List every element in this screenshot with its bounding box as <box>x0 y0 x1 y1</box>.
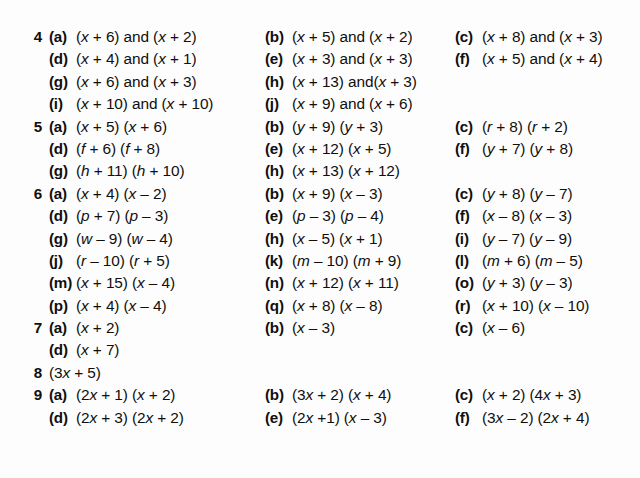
answer-part-label: (o) <box>455 272 482 294</box>
answer-row: (p)(x + 4) (x – 4)(q)(x + 8) (x – 8)(r)(… <box>0 295 640 317</box>
answer-row: (d)(x + 4) and (x + 1)(e)(x + 3) and (x … <box>0 48 640 70</box>
answer-item: (d)(x + 4) and (x + 1) <box>49 48 196 70</box>
answer-expression: (x – 6) <box>482 319 525 336</box>
answer-row: (j)(r – 10) (r + 5)(k)(m – 10) (m + 9)(l… <box>0 250 640 272</box>
answer-expression: (x + 5) and (x + 2) <box>292 28 412 45</box>
answer-expression: (x + 12) (x + 5) <box>292 140 391 157</box>
answer-item: (f)(x – 8) (x – 3) <box>455 205 572 227</box>
answer-item: (j)(r – 10) (r + 5) <box>49 250 170 272</box>
answer-part-label: (i) <box>49 93 76 115</box>
answer-part-label: (c) <box>455 317 482 339</box>
answer-expression: (x + 8) and (x + 3) <box>482 28 602 45</box>
answer-item: (3x + 5) <box>49 362 101 384</box>
answer-part-label: (i) <box>455 228 482 250</box>
answer-row: (i)(x + 10) and (x + 10)(j)(x + 9) and (… <box>0 93 640 115</box>
answer-item: (j)(x + 9) and (x + 6) <box>265 93 412 115</box>
answer-item: (b)(x – 3) <box>265 317 335 339</box>
answer-item: (b)(x + 5) and (x + 2) <box>265 26 412 48</box>
answer-expression: (y + 9) (y + 3) <box>292 118 383 135</box>
answer-expression: (x + 9) and (x + 6) <box>292 95 412 112</box>
answer-item: (d)(2x + 3) (2x + 2) <box>49 407 184 429</box>
answer-expression: (p + 7) (p – 3) <box>76 207 168 224</box>
answer-expression: (y + 8) (y – 7) <box>482 185 572 202</box>
answer-expression: (x + 8) (x – 8) <box>292 297 382 314</box>
answer-expression: (3x + 5) <box>49 364 101 381</box>
answer-expression: (x + 6) and (x + 2) <box>76 28 196 45</box>
answer-item: (b)(x + 9) (x – 3) <box>265 183 382 205</box>
answer-item: (a)(2x + 1) (x + 2) <box>49 384 175 406</box>
answer-part-label: (j) <box>49 250 76 272</box>
answer-part-label: (h) <box>265 160 292 182</box>
answer-item: (b)(3x + 2) (x + 4) <box>265 384 391 406</box>
answer-expression: (2x +1) (x – 3) <box>292 409 387 426</box>
answer-expression: (w – 9) (w – 4) <box>76 230 173 247</box>
answer-item: (m)(x + 15) (x – 4) <box>49 272 175 294</box>
answer-expression: (3x – 2) (2x + 4) <box>482 409 589 426</box>
answer-item: (g)(x + 6) and (x + 3) <box>49 71 196 93</box>
answer-expression: (x + 2) (4x + 3) <box>482 386 581 403</box>
answer-part-label: (f) <box>455 138 482 160</box>
answer-item: (r)(x + 10) (x – 10) <box>455 295 589 317</box>
answer-part-label: (c) <box>455 116 482 138</box>
answer-item: (h)(x + 13) and(x + 3) <box>265 71 417 93</box>
answer-expression: (x + 2) <box>76 319 119 336</box>
answer-part-label: (a) <box>49 384 76 406</box>
answer-expression: (x + 10) and (x + 10) <box>76 95 213 112</box>
answer-part-label: (d) <box>49 407 76 429</box>
answer-expression: (m + 6) (m – 5) <box>482 252 583 269</box>
answer-row: 8(3x + 5) <box>0 362 640 384</box>
answer-expression: (x + 5) and (x + 4) <box>482 50 602 67</box>
answer-expression: (x + 9) (x – 3) <box>292 185 382 202</box>
answer-expression: (x + 6) and (x + 3) <box>76 73 196 90</box>
answer-row: 4(a)(x + 6) and (x + 2)(b)(x + 5) and (x… <box>0 26 640 48</box>
answer-expression: (x + 7) <box>76 341 119 358</box>
answer-part-label: (b) <box>265 317 292 339</box>
answer-part-label: (n) <box>265 272 292 294</box>
answer-part-label: (r) <box>455 295 482 317</box>
answer-item: (d)(p + 7) (p – 3) <box>49 205 168 227</box>
answer-part-label: (h) <box>265 71 292 93</box>
answer-item: (c)(y + 8) (y – 7) <box>455 183 572 205</box>
answer-item: (q)(x + 8) (x – 8) <box>265 295 382 317</box>
answer-expression: (x + 10) (x – 10) <box>482 297 589 314</box>
answer-item: (a)(x + 5) (x + 6) <box>49 116 167 138</box>
answer-expression: (x + 5) (x + 6) <box>76 118 167 135</box>
answer-part-label: (f) <box>455 205 482 227</box>
answers-sheet: 4(a)(x + 6) and (x + 2)(b)(x + 5) and (x… <box>0 0 640 478</box>
answer-part-label: (e) <box>265 407 292 429</box>
answer-expression: (x + 13) (x + 12) <box>292 162 400 179</box>
answer-item: (h)(x – 5) (x + 1) <box>265 228 382 250</box>
answer-item: (k)(m – 10) (m + 9) <box>265 250 401 272</box>
question-number: 4 <box>28 26 42 48</box>
answer-item: (c)(x + 2) (4x + 3) <box>455 384 581 406</box>
answer-expression: (m – 10) (m + 9) <box>292 252 401 269</box>
answer-expression: (y + 3) (y – 3) <box>482 274 572 291</box>
answer-expression: (y – 7) (y – 9) <box>482 230 572 247</box>
answer-expression: (x + 4) (x – 2) <box>76 185 166 202</box>
question-number: 8 <box>28 362 42 384</box>
answer-part-label: (a) <box>49 26 76 48</box>
answer-part-label: (h) <box>265 228 292 250</box>
answer-part-label: (b) <box>265 26 292 48</box>
answer-item: (e)(p – 3) (p – 4) <box>265 205 384 227</box>
question-number: 6 <box>28 183 42 205</box>
answer-expression: (x + 12) (x + 11) <box>292 274 399 291</box>
answer-expression: (2x + 1) (x + 2) <box>76 386 175 403</box>
answer-item: (e)(2x +1) (x – 3) <box>265 407 387 429</box>
answer-part-label: (g) <box>49 228 76 250</box>
answer-expression: (p – 3) (p – 4) <box>292 207 384 224</box>
answer-part-label: (g) <box>49 71 76 93</box>
answer-item: (p)(x + 4) (x – 4) <box>49 295 166 317</box>
answer-part-label: (f) <box>455 407 482 429</box>
answer-item: (l)(m + 6) (m – 5) <box>455 250 583 272</box>
answer-row: (d)(p + 7) (p – 3)(e)(p – 3) (p – 4)(f)(… <box>0 205 640 227</box>
answer-expression: (h + 11) (h + 10) <box>76 162 184 179</box>
answer-part-label: (c) <box>455 26 482 48</box>
answer-item: (h)(x + 13) (x + 12) <box>265 160 400 182</box>
answer-row: (g)(w – 9) (w – 4)(h)(x – 5) (x + 1)(i)(… <box>0 228 640 250</box>
answer-item: (a)(x + 6) and (x + 2) <box>49 26 196 48</box>
answer-item: (c)(x + 8) and (x + 3) <box>455 26 602 48</box>
answer-row: 6(a)(x + 4) (x – 2)(b)(x + 9) (x – 3)(c)… <box>0 183 640 205</box>
answer-part-label: (d) <box>49 48 76 70</box>
answer-part-label: (c) <box>455 384 482 406</box>
